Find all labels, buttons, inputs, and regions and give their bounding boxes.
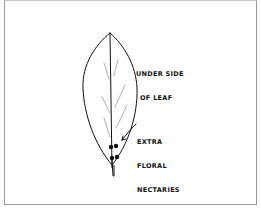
pointer-arrow: [122, 124, 136, 140]
underside-label-line-2: OF LEAF: [136, 94, 184, 102]
leaf-veins: [102, 60, 127, 137]
nectary-dots: [109, 144, 119, 160]
underside-label-line-1: UNDER SIDE: [136, 70, 184, 78]
nectaries-label-line-3: NECTARIES: [137, 186, 180, 194]
leaf-diagram: [0, 0, 261, 210]
leaf-midrib: [110, 34, 114, 176]
nectaries-label-line-2: FLORAL: [137, 162, 180, 170]
nectaries-label-line-1: EXTRA: [137, 138, 180, 146]
underside-label: UNDER SIDE OF LEAF: [136, 54, 184, 110]
nectaries-label: EXTRA FLORAL NECTARIES (4): [137, 122, 180, 210]
